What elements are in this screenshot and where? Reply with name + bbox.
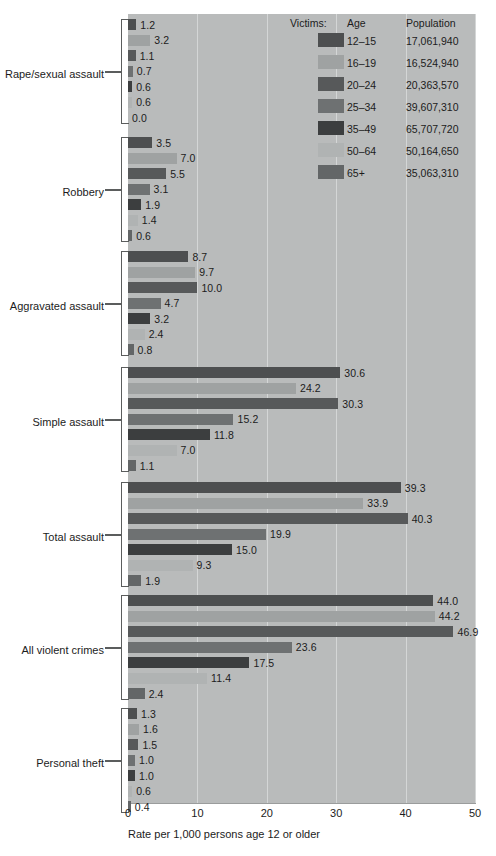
bar	[128, 673, 207, 684]
bar-value-label: 1.1	[140, 50, 155, 62]
bar-value-label: 0.7	[137, 65, 152, 77]
bar-row: 0.6	[128, 230, 475, 241]
bar	[128, 482, 401, 493]
legend-population-value: 65,707,720	[406, 123, 459, 135]
bar-row: 33.9	[128, 498, 475, 509]
bar-row: 2.4	[128, 329, 475, 340]
legend-population-value: 17,061,940	[406, 35, 459, 47]
bar	[128, 611, 435, 622]
bar	[128, 313, 150, 324]
bar	[128, 544, 232, 555]
group-label-wrap: Total assault	[0, 527, 104, 545]
group-label-wrap: Aggravated assault	[0, 296, 104, 314]
bar-value-label: 0.8	[138, 344, 153, 356]
bar-row: 0.0	[128, 112, 475, 123]
bar-value-label: 0.6	[136, 81, 151, 93]
group-bracket-tick	[105, 534, 122, 535]
bar-value-label: 0.0	[132, 112, 147, 124]
bar-value-label: 2.4	[149, 328, 164, 340]
legend-color-swatch	[318, 121, 344, 135]
bar	[128, 560, 193, 571]
bar	[128, 529, 266, 540]
bar-row: 11.8	[128, 429, 475, 440]
x-tick-label-20: 20	[261, 807, 273, 819]
bar	[128, 97, 132, 108]
bar-value-label: 3.1	[154, 183, 169, 195]
x-tick-label-50: 50	[469, 807, 481, 819]
bar-row: 1.6	[128, 724, 475, 735]
legend-header-victims: Victims:	[290, 17, 327, 29]
legend-age-label: 16–19	[347, 57, 376, 69]
bar-value-label: 15.2	[237, 413, 258, 425]
legend-age-label: 65+	[347, 167, 365, 179]
bar	[128, 81, 132, 92]
bar-row: 44.2	[128, 611, 475, 622]
bar-row: 2.4	[128, 688, 475, 699]
bar-row: 24.2	[128, 383, 475, 394]
bar-row: 4.7	[128, 298, 475, 309]
bar-value-label: 19.9	[270, 528, 291, 540]
bar	[128, 688, 145, 699]
legend-color-swatch	[318, 99, 344, 113]
legend-population-value: 35,063,310	[406, 167, 459, 179]
bar-row: 44.0	[128, 595, 475, 606]
bar-row: 30.6	[128, 367, 475, 378]
bar-value-label: 15.0	[236, 544, 257, 556]
legend-color-swatch	[318, 165, 344, 179]
bar-value-label: 1.5	[142, 739, 157, 751]
bar	[128, 153, 177, 164]
bar-row: 1.3	[128, 708, 475, 719]
legend-population-value: 50,164,650	[406, 145, 459, 157]
group-bracket-tick	[105, 647, 122, 648]
bar-row: 23.6	[128, 642, 475, 653]
legend-header-population: Population	[406, 17, 456, 29]
bar	[128, 383, 296, 394]
group-label-wrap: Simple assault	[0, 412, 104, 430]
bar-row: 9.3	[128, 560, 475, 571]
bar	[128, 739, 138, 750]
bar-row: 1.0	[128, 755, 475, 766]
bar-value-label: 4.7	[165, 297, 180, 309]
bar-group: Aggravated assault8.79.710.04.73.22.40.8	[0, 250, 496, 359]
group-label: All violent crimes	[21, 644, 104, 656]
bar-row: 0.6	[128, 786, 475, 797]
bar	[128, 460, 136, 471]
legend-age-label: 50–64	[347, 145, 376, 157]
bar-chart: Rape/sexual assault1.23.21.10.70.60.60.0…	[0, 0, 496, 856]
bar-value-label: 5.5	[170, 168, 185, 180]
bar-value-label: 33.9	[367, 497, 388, 509]
group-label-wrap: Robbery	[0, 182, 104, 200]
bar	[128, 35, 150, 46]
bar-row: 10.0	[128, 282, 475, 293]
legend-population-value: 39,607,310	[406, 101, 459, 113]
bar	[128, 344, 134, 355]
group-bracket-tick	[105, 71, 122, 72]
bar-value-label: 11.4	[211, 672, 231, 684]
bar-row: 9.7	[128, 267, 475, 278]
bar-value-label: 3.2	[154, 34, 169, 46]
bar	[128, 513, 408, 524]
legend-population-value: 16,524,940	[406, 57, 459, 69]
bar-value-label: 3.5	[156, 137, 171, 149]
legend-age-label: 35–49	[347, 123, 376, 135]
x-axis-label: Rate per 1,000 persons age 12 or older	[128, 828, 320, 840]
bar-row: 30.3	[128, 398, 475, 409]
bar-row: 1.1	[128, 460, 475, 471]
bar-value-label: 44.0	[437, 595, 458, 607]
group-label: Total assault	[43, 531, 104, 543]
bar	[128, 282, 197, 293]
bar	[128, 708, 137, 719]
bar-row: 1.5	[128, 739, 475, 750]
bar-value-label: 9.7	[199, 266, 214, 278]
bar	[128, 215, 138, 226]
bar-row: 1.9	[128, 199, 475, 210]
bar	[128, 429, 210, 440]
group-label: Personal theft	[36, 757, 104, 769]
bar-value-label: 1.1	[140, 460, 155, 472]
bar-row: 15.0	[128, 544, 475, 555]
bar	[128, 595, 433, 606]
bar	[128, 298, 161, 309]
bar	[128, 786, 132, 797]
bar	[128, 657, 249, 668]
bar	[128, 329, 145, 340]
